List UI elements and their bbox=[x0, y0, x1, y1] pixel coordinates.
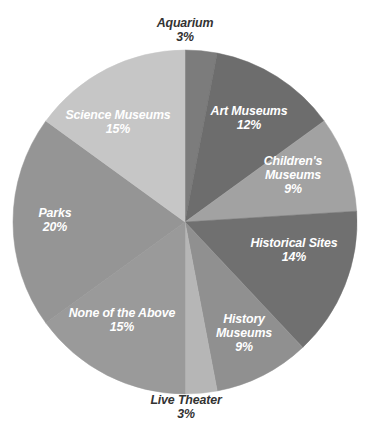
pie-chart-canvas bbox=[0, 0, 367, 439]
pie-chart: Aquarium 3% Art Museums 12% Children's M… bbox=[0, 0, 367, 439]
pie-slice-group bbox=[13, 50, 357, 394]
